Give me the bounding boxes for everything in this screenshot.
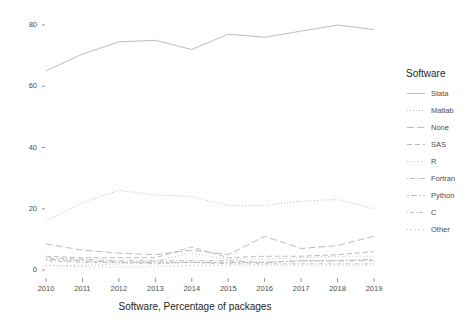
y-tick-label: 60 xyxy=(15,82,37,90)
series-line-none xyxy=(46,236,374,254)
y-tick-label: 0 xyxy=(15,266,37,274)
x-tick-label: 2019 xyxy=(357,285,391,293)
legend-item-r[interactable]: R xyxy=(406,153,470,170)
legend-items: StataMatlabNoneSASRFortranPythonCOther xyxy=(406,85,470,238)
chart-container: 020406080 201020112012201320142015201620… xyxy=(0,0,470,326)
legend-key-sas-icon xyxy=(406,136,426,153)
x-tick-label: 2010 xyxy=(29,285,63,293)
legend-key-r-icon xyxy=(406,153,426,170)
legend-key-fortran-icon xyxy=(406,170,426,187)
legend-item-c[interactable]: C xyxy=(406,204,470,221)
x-tick-label: 2015 xyxy=(211,285,245,293)
series-layer xyxy=(46,25,374,267)
x-tick-label: 2013 xyxy=(138,285,172,293)
x-tick-label: 2017 xyxy=(284,285,318,293)
legend-key-python-icon xyxy=(406,187,426,204)
y-tick-label: 20 xyxy=(15,205,37,213)
legend-key-matlab-icon xyxy=(406,102,426,119)
legend-key-other-icon xyxy=(406,221,426,238)
series-line-stata xyxy=(46,25,374,71)
legend-item-sas[interactable]: SAS xyxy=(406,136,470,153)
x-tick-label: 2011 xyxy=(65,285,99,293)
legend-item-fortran[interactable]: Fortran xyxy=(406,170,470,187)
series-line-other xyxy=(46,265,374,267)
legend-item-label: Other xyxy=(426,226,450,234)
legend-item-label: None xyxy=(426,124,449,132)
legend-item-label: SAS xyxy=(426,141,446,149)
x-axis-title: Software, Percentage of packages xyxy=(20,301,370,312)
axis-tick-marks xyxy=(42,25,374,282)
legend-item-none[interactable]: None xyxy=(406,119,470,136)
legend-item-stata[interactable]: Stata xyxy=(406,85,470,102)
legend-key-stata-icon xyxy=(406,85,426,102)
legend-item-label: C xyxy=(426,209,436,217)
series-line-matlab xyxy=(46,190,374,221)
x-tick-label: 2012 xyxy=(102,285,136,293)
legend-key-none-icon xyxy=(406,119,426,136)
x-tick-label: 2018 xyxy=(321,285,355,293)
legend-title: Software xyxy=(406,68,470,79)
plot-area xyxy=(0,0,400,326)
legend-item-label: Fortran xyxy=(426,175,455,183)
x-tick-label: 2014 xyxy=(175,285,209,293)
legend: Software StataMatlabNoneSASRFortranPytho… xyxy=(406,68,470,238)
legend-item-label: Python xyxy=(426,192,454,200)
legend-item-other[interactable]: Other xyxy=(406,221,470,238)
legend-key-c-icon xyxy=(406,204,426,221)
y-tick-label: 80 xyxy=(15,21,37,29)
legend-item-python[interactable]: Python xyxy=(406,187,470,204)
legend-item-label: Stata xyxy=(426,90,449,98)
legend-item-label: Matlab xyxy=(426,107,454,115)
x-tick-label: 2016 xyxy=(248,285,282,293)
legend-item-matlab[interactable]: Matlab xyxy=(406,102,470,119)
legend-item-label: R xyxy=(426,158,436,166)
y-tick-label: 40 xyxy=(15,144,37,152)
plot-panel xyxy=(0,0,400,326)
